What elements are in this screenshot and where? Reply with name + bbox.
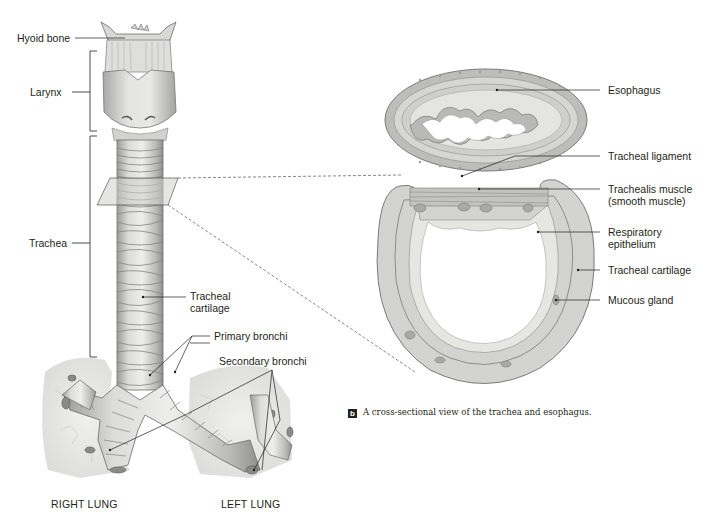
label-tracheal-ligament: Tracheal ligament bbox=[608, 150, 691, 162]
brackets bbox=[72, 51, 97, 357]
label-left-lung: LEFT LUNG bbox=[221, 498, 280, 510]
label-secondary-bronchi: Secondary bronchi bbox=[219, 355, 307, 367]
larynx-illustration bbox=[101, 22, 176, 145]
label-mucous-gland: Mucous gland bbox=[608, 294, 673, 306]
figure-caption: bA cross-sectional view of the trachea a… bbox=[348, 407, 592, 418]
label-trachea: Trachea bbox=[29, 237, 67, 249]
label-primary-bronchi: Primary bronchi bbox=[214, 330, 288, 342]
label-hyoid-bone: Hyoid bone bbox=[17, 32, 70, 44]
section-plane bbox=[97, 178, 178, 205]
panel-badge: b bbox=[348, 409, 357, 418]
caption-text: A cross-sectional view of the trachea an… bbox=[363, 407, 592, 417]
label-larynx: Larynx bbox=[30, 86, 62, 98]
label-tracheal-cartilage-right: Tracheal cartilage bbox=[608, 264, 691, 276]
trachea-cross-section bbox=[377, 180, 594, 384]
trachea-anatomy-figure: Hyoid bone Larynx Trachea Tracheal carti… bbox=[0, 0, 711, 521]
trachea-illustration bbox=[117, 140, 163, 390]
label-tracheal-cartilage-left: Tracheal cartilage bbox=[190, 290, 230, 314]
label-esophagus: Esophagus bbox=[608, 84, 661, 96]
label-right-lung: RIGHT LUNG bbox=[51, 498, 118, 510]
label-trachealis-muscle: Trachealis muscle (smooth muscle) bbox=[608, 183, 692, 207]
label-respiratory-epithelium: Respiratory epithelium bbox=[608, 226, 662, 250]
